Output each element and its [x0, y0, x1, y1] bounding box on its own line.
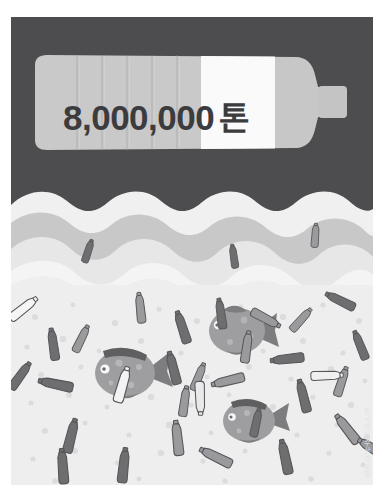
poster-artboard: 8,000,000톤 한국해양수산개발원 — [11, 17, 373, 485]
poster-stage: 8,000,000톤 한국해양수산개발원 — [0, 0, 384, 493]
watermark-text: 한국해양수산개발원 — [361, 407, 371, 479]
illustration-canvas — [11, 17, 373, 485]
headline-number: 8,000,000 — [63, 98, 214, 137]
bottle-cap — [318, 86, 347, 118]
headline-unit: 톤 — [219, 100, 249, 137]
headline-figure: 8,000,000톤 — [63, 100, 303, 135]
